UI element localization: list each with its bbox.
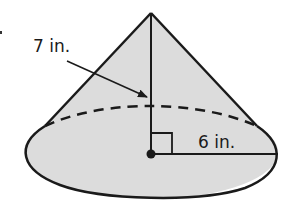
slant-height-label: 7 in.	[33, 36, 70, 56]
base-center-point	[147, 150, 156, 159]
stray-mark	[0, 31, 2, 34]
radius-label: 6 in.	[198, 132, 235, 152]
cone-diagram: 7 in. 6 in.	[0, 0, 293, 210]
